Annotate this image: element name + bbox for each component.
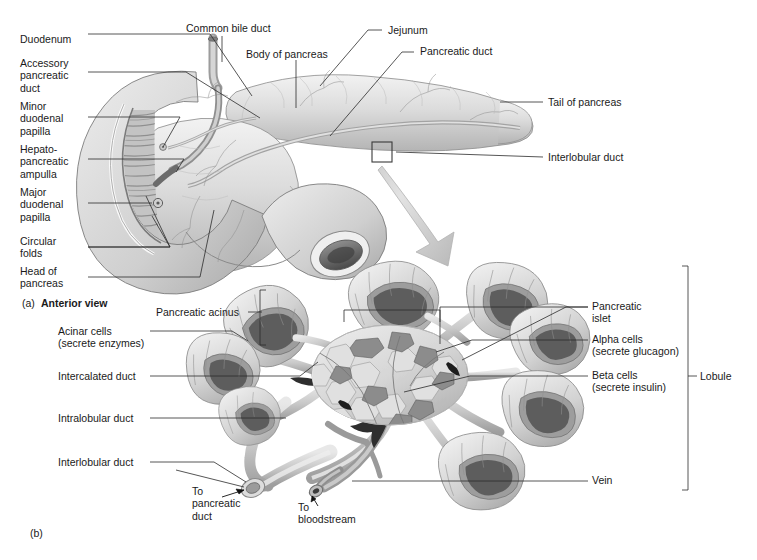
label-jejunum: Jejunum bbox=[388, 24, 428, 36]
lobule-bracket bbox=[682, 266, 688, 490]
label-head-of-pancreas: Head of pancreas bbox=[20, 265, 63, 290]
label-to-bloodstream: To bloodstream bbox=[298, 501, 356, 526]
label-duodenum: Duodenum bbox=[20, 33, 71, 45]
label-to-pancreatic-duct: To pancreatic duct bbox=[192, 485, 240, 522]
label-common-bile-duct: Common bile duct bbox=[186, 22, 271, 34]
label-pancreatic-duct: Pancreatic duct bbox=[420, 45, 492, 57]
label-vein: Vein bbox=[592, 474, 612, 486]
label-lobule: Lobule bbox=[700, 370, 732, 382]
label-interlobular-duct-b: Interlobular duct bbox=[58, 456, 133, 468]
label-accessory-pancreatic-duct: Accessory pancreatic duct bbox=[20, 57, 68, 94]
label-tail-of-pancreas: Tail of pancreas bbox=[548, 96, 622, 108]
acinus bbox=[436, 429, 527, 512]
label-intralobular-duct: Intralobular duct bbox=[58, 412, 133, 424]
label-acinar-cells: Acinar cells (secrete enzymes) bbox=[58, 325, 144, 350]
acinus bbox=[216, 383, 283, 448]
panel-b-id: (b) bbox=[30, 527, 43, 539]
panel-b-illustration bbox=[181, 254, 595, 512]
label-circular-folds: Circular folds bbox=[20, 235, 56, 260]
panel-a-caption: Anterior view bbox=[41, 297, 108, 309]
panel-a-illustration bbox=[76, 37, 533, 294]
magnification-arrow bbox=[378, 166, 454, 266]
label-body-of-pancreas: Body of pancreas bbox=[246, 48, 328, 60]
label-minor-duodenal-papilla: Minor duodenal papilla bbox=[20, 100, 63, 137]
label-alpha-cells: Alpha cells (secrete glucagon) bbox=[592, 333, 679, 358]
label-pancreatic-islet: Pancreatic islet bbox=[592, 300, 642, 325]
label-beta-cells: Beta cells (secrete insulin) bbox=[592, 369, 666, 394]
pancreatic-islet bbox=[306, 325, 468, 432]
panel-a-id: (a) bbox=[22, 297, 35, 309]
label-hepatopancreatic-ampulla: Hepato- pancreatic ampulla bbox=[20, 143, 68, 180]
figure-canvas: Duodenum Accessory pancreatic duct Minor… bbox=[0, 0, 757, 560]
label-intercalated-duct: Intercalated duct bbox=[58, 370, 136, 382]
label-pancreatic-acinus: Pancreatic acinus bbox=[156, 306, 239, 318]
acinus bbox=[497, 367, 587, 451]
anatomy-illustration bbox=[0, 0, 757, 560]
label-interlobular-duct-a: Interlobular duct bbox=[548, 151, 623, 163]
label-major-duodenal-papilla: Major duodenal papilla bbox=[20, 186, 63, 223]
